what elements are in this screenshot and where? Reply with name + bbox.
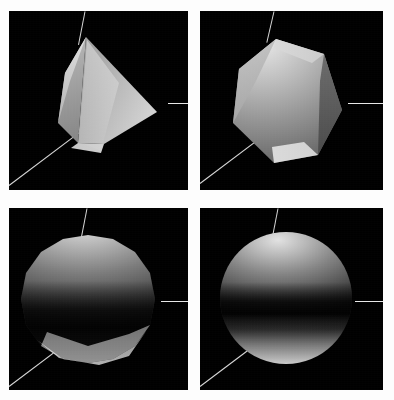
render-panel-bottom-left[interactable] bbox=[9, 208, 188, 390]
scene-bottom-right bbox=[200, 208, 383, 390]
figure-root bbox=[0, 0, 394, 400]
shape-low-poly-cone bbox=[9, 11, 188, 190]
terminator-edge bbox=[220, 232, 352, 364]
scene-top-left bbox=[9, 11, 188, 190]
render-panel-bottom-right[interactable] bbox=[200, 208, 383, 390]
shape-faceted-polyhedron bbox=[200, 11, 383, 190]
shape-near-sphere bbox=[9, 208, 188, 390]
shape-smooth-sphere bbox=[200, 208, 383, 390]
scene-top-right bbox=[200, 11, 383, 190]
render-panel-top-left[interactable] bbox=[9, 11, 188, 190]
render-panel-top-right[interactable] bbox=[200, 11, 383, 190]
scene-bottom-left bbox=[9, 208, 188, 390]
facet-highlight bbox=[9, 11, 188, 190]
facet-body bbox=[200, 11, 383, 190]
